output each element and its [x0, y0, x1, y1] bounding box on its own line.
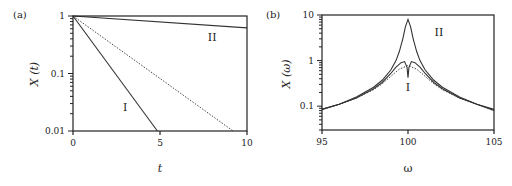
x-tick-label: 105	[485, 137, 502, 147]
panel-a-frame	[73, 16, 247, 131]
panel-a-curves: III	[73, 16, 247, 131]
y-tick-label: 0.01	[45, 126, 65, 136]
y-tick-label: 10	[303, 10, 315, 20]
panel-b-ticks: 951001050.1110	[300, 10, 503, 147]
panel-a-ticks: 05100.010.11	[45, 11, 253, 148]
curve-label: II	[208, 31, 217, 44]
curve-label: I	[123, 101, 127, 114]
curve-ii	[322, 19, 494, 109]
panel-a-label: (a)	[13, 9, 27, 20]
figure: (a) 05100.010.11 III X (t) t (b) 9510010…	[0, 0, 512, 186]
x-tick-label: 10	[241, 138, 253, 148]
x-tick-label: 0	[70, 138, 76, 148]
x-tick-label: 95	[316, 137, 328, 147]
curve-ii	[73, 16, 247, 28]
panel-b-curves: III	[322, 19, 494, 110]
y-tick-label: 0.1	[51, 69, 65, 79]
x-tick-label: 5	[157, 138, 163, 148]
curve-i	[73, 16, 157, 131]
y-tick-label: 1	[59, 11, 65, 21]
panel-b: (b) 951001050.1110 III X (ω) ω	[266, 9, 503, 175]
y-tick-label: 1	[308, 56, 314, 66]
panel-b-ylabel: X (ω)	[280, 60, 293, 90]
panel-a: (a) 05100.010.11 III X (t) t	[13, 9, 253, 175]
panel-b-xlabel: ω	[404, 162, 413, 175]
panel-b-label: (b)	[266, 9, 280, 20]
curve-label: I	[406, 81, 410, 94]
panel-a-xlabel: t	[158, 162, 163, 175]
curve-label: II	[435, 26, 444, 39]
y-tick-label: 0.1	[300, 101, 314, 111]
x-tick-label: 100	[399, 137, 416, 147]
panel-a-ylabel: X (t)	[28, 62, 41, 87]
